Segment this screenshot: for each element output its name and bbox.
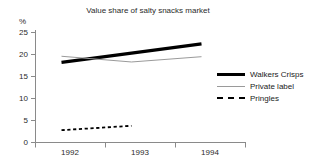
x-tick-label-1993: 1993 (120, 148, 160, 157)
data-series-layer (62, 44, 202, 130)
x-tick-label-1992: 1992 (50, 148, 90, 157)
legend-label-walkers-crisps: Walkers Crisps (250, 70, 303, 79)
legend-item-pringles: Pringles (217, 92, 303, 104)
chart-legend: Walkers Crisps Private label Pringles (217, 68, 303, 104)
legend-label-private-label: Private label (250, 82, 294, 91)
y-tick-marks (31, 33, 36, 143)
x-tick-marks (36, 143, 246, 148)
legend-item-private-label: Private label (217, 80, 303, 92)
legend-item-walkers-crisps: Walkers Crisps (217, 68, 303, 80)
series-line-walkers-crisps (62, 44, 202, 62)
line-chart-figure: Value share of salty snacks market % (0, 0, 318, 165)
thin-line-swatch-icon (217, 81, 245, 91)
x-tick-label-1994: 1994 (190, 148, 230, 157)
y-tick-label-5: 5 (8, 116, 28, 125)
y-tick-label-0: 0 (8, 138, 28, 147)
y-tick-label-20: 20 (8, 50, 28, 59)
y-tick-label-15: 15 (8, 72, 28, 81)
thick-line-swatch-icon (217, 69, 245, 79)
y-tick-label-25: 25 (8, 28, 28, 37)
series-line-pringles (62, 126, 132, 130)
y-tick-label-10: 10 (8, 94, 28, 103)
legend-label-pringles: Pringles (250, 94, 279, 103)
dashed-line-swatch-icon (217, 93, 245, 103)
